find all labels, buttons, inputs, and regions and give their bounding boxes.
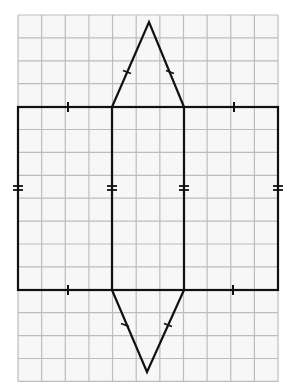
prism-net-figure: Net of a triangular prism drawn on squar…	[0, 0, 290, 391]
grid-paper	[18, 15, 278, 381]
net-diagram	[0, 0, 290, 391]
